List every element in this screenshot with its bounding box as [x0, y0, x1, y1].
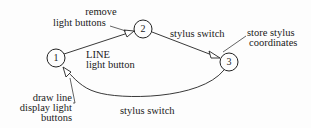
action-remove-line2: light buttons	[53, 18, 106, 28]
action-store-line2: coordinates	[249, 38, 297, 48]
action-draw-line3: buttons	[10, 113, 72, 123]
leader-store-stylus	[223, 36, 246, 52]
edge-3-1	[68, 70, 224, 97]
edge-2-3-label: stylus switch	[170, 29, 225, 39]
arrowhead-3-1-icon	[63, 67, 71, 77]
action-remove-line1: remove	[76, 7, 126, 17]
arrowhead-2-3-icon	[209, 51, 220, 58]
node-1-label: 1	[47, 49, 65, 67]
edge-3-1-label: stylus switch	[120, 106, 175, 116]
node-3-label: 3	[220, 53, 238, 71]
state-diagram: 1 2 3 remove light buttons LINE light bu…	[0, 0, 311, 128]
edge-1-2-label-line2: light button	[86, 60, 135, 70]
leader-remove-light-buttons	[110, 26, 126, 31]
node-2-label: 2	[134, 20, 152, 38]
